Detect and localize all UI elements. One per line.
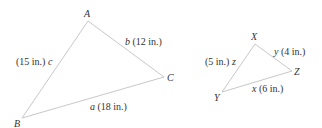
vertex-label-b: B — [14, 118, 20, 128]
side-label-a: a (18 in.) — [90, 101, 127, 113]
triangle-abc: A C B b (12 in.) (15 in.) c a (18 in.) — [14, 8, 174, 128]
side-label-y: y (4 in.) — [273, 46, 305, 58]
triangle-xyz: X Z Y y (4 in.) (5 in.) z x (6 in.) — [205, 31, 305, 103]
side-label-b: b (12 in.) — [125, 36, 162, 48]
side-label-c: (15 in.) c — [16, 56, 53, 68]
side-label-z: (5 in.) z — [205, 56, 236, 68]
vertex-label-z: Z — [294, 66, 300, 77]
vertex-label-y: Y — [214, 92, 221, 103]
vertex-label-x: X — [250, 31, 258, 42]
vertex-label-c: C — [167, 72, 174, 83]
similar-triangles-diagram: A C B b (12 in.) (15 in.) c a (18 in.) X… — [0, 0, 322, 128]
vertex-label-a: A — [83, 8, 91, 19]
side-label-x: x (6 in.) — [251, 83, 283, 95]
